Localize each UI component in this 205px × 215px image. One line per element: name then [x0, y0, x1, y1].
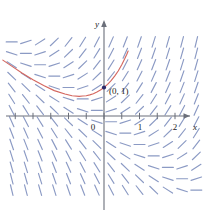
- slope-segment: [78, 73, 87, 79]
- slope-segment: [50, 38, 58, 46]
- slope-segment: [80, 151, 86, 160]
- slope-segment: [65, 49, 73, 57]
- slope-segment: [180, 59, 183, 69]
- slope-segment: [21, 40, 31, 43]
- slope-segment: [37, 106, 44, 115]
- slope-segment: [39, 185, 42, 196]
- slope-segment: [108, 72, 115, 81]
- initial-point-label: (0, 1): [109, 86, 129, 96]
- slope-segment: [25, 185, 28, 196]
- slope-segment: [195, 48, 198, 59]
- slope-segment: [66, 151, 71, 161]
- slope-segment: [24, 128, 28, 138]
- slope-segment: [81, 185, 85, 195]
- slope-segment: [163, 142, 172, 148]
- slope-segment: [24, 173, 27, 184]
- slope-segment: [109, 48, 114, 58]
- slope-segment: [138, 48, 142, 58]
- slope-segment: [109, 185, 114, 195]
- slope-segment: [94, 163, 100, 172]
- slope-segment: [64, 107, 73, 113]
- slope-segment: [121, 163, 129, 171]
- slope-segment: [137, 60, 141, 70]
- slope-segment: [79, 61, 87, 69]
- slope-segment: [53, 185, 56, 196]
- slope-segment: [94, 49, 100, 58]
- slope-segment: [77, 109, 87, 112]
- slope-segment: [151, 71, 155, 81]
- plot-canvas: 0 1 2 x y (0, 1): [0, 0, 205, 215]
- slope-segment: [180, 94, 184, 104]
- slope-segment: [23, 95, 30, 104]
- slope-segment: [177, 188, 187, 191]
- slope-segment: [166, 60, 170, 70]
- slope-segment: [193, 140, 200, 149]
- slope-segment: [177, 153, 186, 159]
- slope-segment: [108, 174, 114, 183]
- slope-segment: [66, 140, 72, 149]
- slope-segment: [150, 106, 157, 115]
- slope-segment: [122, 185, 128, 194]
- slope-segment: [195, 82, 199, 92]
- slope-segment: [36, 95, 44, 103]
- slope-segment: [49, 63, 59, 66]
- slope-segment: [108, 163, 115, 172]
- slope-segment: [107, 152, 115, 160]
- slope-segment: [10, 162, 13, 173]
- slope-segment: [23, 117, 28, 127]
- slope-segment: [53, 174, 57, 184]
- slope-segment: [122, 174, 129, 183]
- slope-segment: [38, 173, 41, 184]
- slope-segment: [151, 83, 156, 93]
- slope-segment: [94, 152, 101, 161]
- slope-segment: [109, 37, 113, 47]
- slope-segment: [35, 39, 44, 45]
- slope-segment: [35, 52, 45, 55]
- slope-segment: [152, 37, 155, 48]
- tick-label-2: 2: [173, 122, 178, 132]
- slope-segment: [9, 105, 14, 115]
- slope-segment: [150, 118, 158, 126]
- slope-segment: [78, 119, 87, 125]
- slope-segment: [24, 139, 28, 149]
- slope-segment: [121, 153, 130, 159]
- slope-segment: [106, 131, 116, 134]
- slope-segment: [10, 151, 13, 162]
- slope-segment: [192, 164, 201, 170]
- slope-segment: [9, 117, 13, 127]
- slope-segment: [94, 60, 101, 69]
- slope-segment: [51, 128, 57, 137]
- slope-segment: [10, 139, 14, 149]
- slope-segment: [180, 82, 184, 92]
- slope-segment: [10, 185, 13, 196]
- slope-segment: [38, 151, 42, 161]
- slope-segment: [66, 162, 70, 172]
- slope-segment: [181, 37, 184, 48]
- y-axis-label: y: [94, 19, 99, 29]
- slope-segment: [122, 71, 128, 80]
- slope-segment: [136, 186, 143, 195]
- slope-segment: [150, 186, 158, 194]
- slope-segment: [120, 120, 130, 123]
- slope-segment: [106, 96, 115, 102]
- slope-segment: [24, 151, 28, 161]
- y-axis-arrowhead: [101, 20, 107, 27]
- slope-segment: [166, 71, 170, 81]
- slope-segment: [64, 62, 73, 68]
- slope-segment: [151, 94, 157, 103]
- slope-segment: [65, 129, 72, 138]
- slope-segment: [67, 185, 71, 195]
- slope-segment: [52, 162, 56, 172]
- slope-segment: [38, 128, 43, 138]
- slope-segment: [79, 49, 86, 58]
- y-axis: [101, 20, 107, 210]
- slope-segment: [134, 154, 144, 157]
- slope-segment: [165, 94, 170, 104]
- slope-segment: [163, 177, 173, 180]
- slope-segment: [50, 96, 59, 102]
- slope-segment: [120, 143, 130, 146]
- x-axis-label: x: [192, 122, 197, 132]
- slope-segment: [67, 174, 71, 184]
- slope-segment: [35, 74, 45, 77]
- slope-segment: [63, 74, 73, 77]
